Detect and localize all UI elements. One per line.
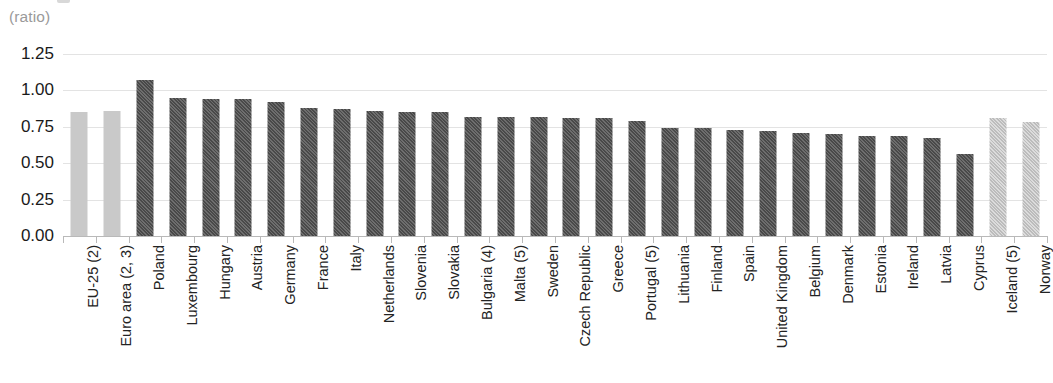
x-tick bbox=[719, 236, 720, 243]
x-label-slot: Italy bbox=[325, 245, 358, 383]
x-label-slot: Latvia bbox=[916, 245, 949, 383]
x-tick bbox=[785, 236, 786, 243]
bar[interactable] bbox=[300, 108, 317, 236]
bar-slot bbox=[424, 54, 457, 236]
x-label-slot: Slovakia bbox=[424, 245, 457, 383]
plot-area bbox=[63, 54, 1047, 236]
x-tick bbox=[522, 236, 523, 243]
x-label-slot: Euro area (2, 3) bbox=[96, 245, 129, 383]
bar[interactable] bbox=[628, 121, 645, 236]
x-tick bbox=[752, 236, 753, 243]
y-tick-label: 0.50 bbox=[21, 153, 54, 173]
x-label-slot: Spain bbox=[719, 245, 752, 383]
bar[interactable] bbox=[858, 136, 875, 236]
y-tick-label: 0.25 bbox=[21, 190, 54, 210]
x-label-slot: United Kingdom bbox=[752, 245, 785, 383]
bar[interactable] bbox=[530, 117, 547, 236]
bar-slot bbox=[588, 54, 621, 236]
bar-slot bbox=[981, 54, 1014, 236]
bar[interactable] bbox=[596, 118, 613, 236]
bar[interactable] bbox=[891, 136, 908, 236]
x-tick bbox=[949, 236, 950, 243]
x-label-slot: Greece bbox=[588, 245, 621, 383]
x-tick bbox=[489, 236, 490, 243]
x-tick bbox=[850, 236, 851, 243]
x-label-slot: Austria bbox=[227, 245, 260, 383]
x-tick bbox=[555, 236, 556, 243]
bar-slot bbox=[293, 54, 326, 236]
bar[interactable] bbox=[136, 80, 153, 236]
bar[interactable] bbox=[956, 154, 973, 236]
clipped-title-glyph bbox=[57, 0, 70, 3]
bar-slot bbox=[63, 54, 96, 236]
bar[interactable] bbox=[563, 118, 580, 236]
x-category-label: Norway bbox=[1038, 245, 1053, 294]
bar-slot bbox=[949, 54, 982, 236]
x-label-slot: Sweden bbox=[522, 245, 555, 383]
x-label-slot: Finland bbox=[686, 245, 719, 383]
bar[interactable] bbox=[399, 112, 416, 236]
x-label-slot: Poland bbox=[129, 245, 162, 383]
bar[interactable] bbox=[661, 128, 678, 236]
x-label-slot: Germany bbox=[260, 245, 293, 383]
x-label-slot: Belgium bbox=[785, 245, 818, 383]
y-tick-label: 1.25 bbox=[21, 44, 54, 64]
bar[interactable] bbox=[333, 109, 350, 236]
bar[interactable] bbox=[924, 138, 941, 236]
x-label-slot: Ireland bbox=[883, 245, 916, 383]
bar[interactable] bbox=[792, 133, 809, 236]
x-tick bbox=[686, 236, 687, 243]
y-tick-label: 1.00 bbox=[21, 80, 54, 100]
x-tick bbox=[457, 236, 458, 243]
bar[interactable] bbox=[268, 102, 285, 236]
bar[interactable] bbox=[825, 134, 842, 236]
bar[interactable] bbox=[989, 118, 1006, 236]
x-label-slot: Estonia bbox=[850, 245, 883, 383]
bar[interactable] bbox=[727, 130, 744, 236]
bar[interactable] bbox=[235, 99, 252, 236]
x-label-slot: Cyprus bbox=[949, 245, 982, 383]
bar[interactable] bbox=[202, 99, 219, 236]
bar-slot bbox=[161, 54, 194, 236]
bar[interactable] bbox=[104, 111, 121, 236]
bar-series bbox=[63, 54, 1047, 236]
x-tick bbox=[260, 236, 261, 243]
x-label-slot: Hungary bbox=[194, 245, 227, 383]
x-tick bbox=[981, 236, 982, 243]
bar-slot bbox=[391, 54, 424, 236]
x-tick bbox=[916, 236, 917, 243]
bar[interactable] bbox=[694, 128, 711, 236]
bar[interactable] bbox=[760, 131, 777, 236]
x-label-slot: Denmark bbox=[817, 245, 850, 383]
x-tick bbox=[129, 236, 130, 243]
x-label-slot: Lithuania bbox=[653, 245, 686, 383]
x-label-slot: Czech Republic bbox=[555, 245, 588, 383]
bar[interactable] bbox=[169, 98, 186, 236]
x-axis-category-labels: EU-25 (2)Euro area (2, 3)PolandLuxembour… bbox=[63, 245, 1047, 383]
bar[interactable] bbox=[497, 117, 514, 236]
x-tick bbox=[391, 236, 392, 243]
bar[interactable] bbox=[1022, 122, 1039, 236]
x-tick bbox=[227, 236, 228, 243]
x-label-slot: Netherlands bbox=[358, 245, 391, 383]
bar[interactable] bbox=[366, 111, 383, 236]
x-label-slot: Portugal (5) bbox=[621, 245, 654, 383]
bar-slot bbox=[129, 54, 162, 236]
x-tick bbox=[325, 236, 326, 243]
bar-slot bbox=[489, 54, 522, 236]
x-tick bbox=[161, 236, 162, 243]
bar[interactable] bbox=[464, 117, 481, 236]
y-axis-tick-labels: 0.000.250.500.751.001.25 bbox=[0, 54, 54, 236]
x-label-slot: Bulgaria (4) bbox=[457, 245, 490, 383]
bar-slot bbox=[883, 54, 916, 236]
bar-slot bbox=[260, 54, 293, 236]
x-tick bbox=[358, 236, 359, 243]
bar-slot bbox=[194, 54, 227, 236]
bar[interactable] bbox=[71, 112, 88, 236]
x-label-slot: EU-25 (2) bbox=[63, 245, 96, 383]
x-tick bbox=[1014, 236, 1015, 243]
x-label-slot: Iceland (5) bbox=[981, 245, 1014, 383]
bar[interactable] bbox=[432, 112, 449, 236]
x-label-slot: France bbox=[293, 245, 326, 383]
